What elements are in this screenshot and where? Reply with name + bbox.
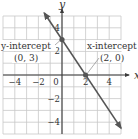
y-axis-label: y bbox=[58, 0, 66, 11]
svg-text:−4: −4 bbox=[47, 117, 60, 127]
svg-text:−4: −4 bbox=[9, 77, 22, 87]
x-axis-label: x bbox=[134, 69, 138, 82]
coordinate-plot: xy −4−2024−4−224 y-intercept(0, 3)x-inte… bbox=[0, 0, 138, 139]
axes: xy bbox=[3, 0, 138, 134]
svg-text:−2: −2 bbox=[47, 94, 60, 104]
svg-text:0: 0 bbox=[53, 77, 58, 87]
annotations: y-intercept(0, 3)x-intercept(2, 0) bbox=[0, 40, 138, 73]
svg-text:y-intercept: y-intercept bbox=[0, 41, 51, 51]
svg-text:x-intercept: x-intercept bbox=[87, 41, 137, 51]
svg-text:4: 4 bbox=[106, 77, 111, 87]
svg-text:−2: −2 bbox=[32, 77, 45, 87]
svg-text:(2, 0): (2, 0) bbox=[100, 53, 124, 63]
svg-text:(0, 3): (0, 3) bbox=[14, 53, 38, 63]
